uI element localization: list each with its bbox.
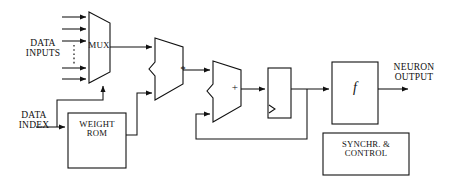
neuron-output-label: NEURON OUTPUT (382, 62, 446, 83)
mux-label: MUX (82, 41, 116, 51)
synchr-control-label: SYNCHR. & CONTROL (327, 140, 405, 159)
adder-label: + (228, 82, 242, 94)
data-index-label: DATA INDEX (5, 110, 63, 131)
block-diagram-canvas: DATA INPUTS MUX DATA INDEX WEIGHT ROM * … (0, 0, 450, 189)
accumulator-register-block (268, 68, 291, 118)
diagram-svg (0, 0, 450, 189)
data-inputs-label: DATA INPUTS (14, 38, 72, 59)
weight-to-multiplier-signal (126, 93, 152, 135)
activation-function-label: f (345, 80, 365, 95)
multiplier-label: * (176, 64, 190, 76)
weight-rom-label: WEIGHT ROM (68, 120, 126, 139)
